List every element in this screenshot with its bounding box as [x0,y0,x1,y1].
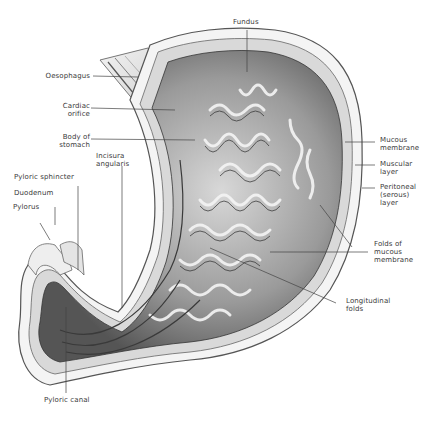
label-peritoneal-layer: Peritoneal (serous) layer [380,183,416,207]
label-pyloric-sphincter: Pyloric sphincter [14,173,74,181]
label-pyloric-canal: Pyloric canal [44,396,90,404]
label-muscular-layer: Muscular layer [380,160,412,176]
label-folds-of-mucous-membrane: Folds of mucous membrane [374,240,413,264]
label-oesophagus: Oesophagus [38,72,90,80]
label-longitudinal-folds: Longitudinal folds [346,297,390,313]
label-mucous-membrane: Mucous membrane [380,136,419,152]
label-pylorus: Pylorus [13,203,39,211]
label-body-of-stomach: Body of stomach [38,133,90,149]
stomach-illustration [0,0,432,421]
label-cardiac-orifice: Cardiac orifice [38,102,90,118]
label-duodenum: Duodenum [14,189,53,197]
label-fundus: Fundus [233,18,259,26]
stomach-diagram: Fundus Oesophagus Cardiac orifice Body o… [0,0,432,421]
label-incisura-angularis: Incisura angularis [96,152,129,168]
